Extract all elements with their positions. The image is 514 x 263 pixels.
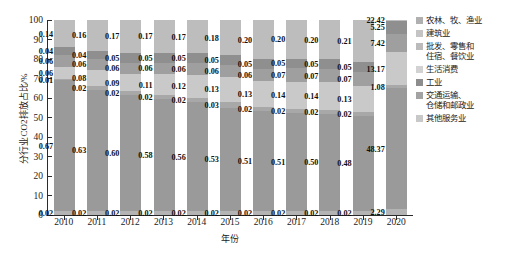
- bar-segment-value: 0.02: [72, 83, 86, 92]
- x-axis-tick: 2014: [186, 217, 207, 233]
- y-axis-title: 分行业CO2排放占比/%: [17, 44, 30, 194]
- legend-item: 工业: [416, 78, 514, 88]
- bar-segment: 13.17: [386, 52, 407, 85]
- x-axis-tick: 2011: [86, 217, 107, 233]
- bar-segment: 48.37: [386, 88, 407, 209]
- bar-segment-value: 0.17: [171, 32, 185, 41]
- bar-segment-value: 0.20: [238, 35, 252, 44]
- legend-swatch-icon: [416, 115, 423, 122]
- bar-segment-value: 0.17: [105, 32, 119, 41]
- bar-segment-value: 0.14: [39, 29, 53, 38]
- bar-segment-value: 0.05: [105, 53, 119, 62]
- bar-segment-value: 0.02: [238, 104, 252, 113]
- bar-segment-value: 0.51: [238, 156, 252, 165]
- bar-segment-value: 0.04: [72, 50, 86, 59]
- bar-segment-value: 0.03: [205, 100, 219, 109]
- bar-segment-value: 0.11: [139, 80, 153, 89]
- bar-segment: 7.42: [386, 34, 407, 53]
- bar-segment-value: 0.02: [105, 89, 119, 98]
- legend-swatch-icon: [416, 66, 423, 73]
- x-axis-tick: 2010: [53, 217, 74, 233]
- y-axis-tick: 100: [29, 15, 48, 25]
- bar-segment-value: 0.21: [337, 36, 351, 45]
- x-axis-tick: 2019: [353, 217, 374, 233]
- bar-column: 0.210.050.070.130.020.480.02: [353, 20, 374, 215]
- legend-label: 工业: [426, 78, 442, 88]
- bar-segment-value: 13.17: [366, 64, 384, 73]
- y-axis-tick: 30: [34, 152, 49, 162]
- bar-column: 0.180.050.060.130.030.530.02: [220, 20, 241, 215]
- y-axis-tick: 60: [34, 93, 49, 103]
- bar-segment-value: 7.42: [370, 39, 384, 48]
- bar-segment-value: 0.05: [271, 59, 285, 68]
- bar-segment-value: 0.06: [105, 64, 119, 73]
- x-axis-title: 年份: [47, 232, 413, 245]
- legend-label: 交通运输、 仓储和邮政业: [426, 91, 474, 111]
- legend-item: 农林、牧、渔业: [416, 16, 514, 26]
- x-axis-tick: 2020: [386, 217, 407, 233]
- bar-segment-value: 0.18: [205, 33, 219, 42]
- bar-segment-value: 0.02: [138, 93, 152, 102]
- legend-label: 农林、牧、渔业: [426, 16, 482, 26]
- legend-label: 其他服务业: [426, 114, 466, 124]
- bar-segment-value: 1.08: [370, 82, 384, 91]
- bar-segment-value: 0.06: [238, 71, 252, 80]
- bar-segment-value: 0.06: [171, 64, 185, 73]
- bar-segment-value: 0.05: [304, 59, 318, 68]
- bar-segment-value: 0.06: [72, 60, 86, 69]
- bar-segment-value: 5.25: [370, 23, 384, 32]
- bar-column: 0.200.050.070.140.020.510.02: [286, 20, 307, 215]
- bar-segment-value: 0.05: [171, 54, 185, 63]
- bar-segment-value: 0.05: [238, 60, 252, 69]
- bar-segment-value: 0.20: [271, 35, 285, 44]
- legend-item: 其他服务业: [416, 114, 514, 124]
- y-axis-tick: 20: [34, 171, 49, 181]
- bar-segment-value: 0.05: [205, 56, 219, 65]
- bar-segment-value: 0.09: [105, 78, 119, 87]
- legend-item: 交通运输、 仓储和邮政业: [416, 91, 514, 111]
- bar-segment-value: 0.16: [72, 31, 86, 40]
- bar-segment-value: 0.05: [138, 53, 152, 62]
- bar-segment: 5.25: [386, 21, 407, 34]
- plot-area: 0102030405060708090100 0.140.040.060.060…: [47, 20, 413, 216]
- stacked-bar-chart: 分行业CO2排放占比/% 0102030405060708090100 0.14…: [0, 0, 514, 263]
- legend-item: 生活消费: [416, 65, 514, 75]
- bar-segment-value: 0.02: [337, 109, 351, 118]
- legend-item: 批发、零售和 住宿、餐饮业: [416, 42, 514, 62]
- bar-segment-value: 0.13: [337, 94, 351, 103]
- bar-column: 0.160.040.060.080.020.630.02: [87, 20, 108, 215]
- bar-column: 0.140.040.060.060.010.670.02: [54, 20, 75, 215]
- x-axis-tick: 2013: [153, 217, 174, 233]
- bar-segment-value: 0.06: [205, 66, 219, 75]
- bar-segment-value: 0.02: [171, 95, 185, 104]
- bar-column: 22.425.257.4213.171.0848.372.29: [386, 20, 407, 215]
- legend: 农林、牧、渔业建筑业批发、零售和 住宿、餐饮业生活消费工业交通运输、 仓储和邮政…: [416, 16, 514, 127]
- x-axis-ticks: 2010201120122013201420152016201720182019…: [47, 217, 413, 233]
- legend-item: 建筑业: [416, 29, 514, 39]
- bar-segment-value: 0.07: [304, 71, 318, 80]
- bar-segment-value: 0.13: [238, 89, 252, 98]
- legend-swatch-icon: [416, 92, 423, 99]
- bar-segment-value: 0.60: [105, 149, 119, 158]
- legend-swatch-icon: [416, 79, 423, 86]
- bar-segment-value: 0.05: [337, 62, 351, 71]
- bar-segment-value: 0.06: [138, 64, 152, 73]
- bar-segment-value: 0.12: [171, 82, 185, 91]
- legend-swatch-icon: [416, 17, 423, 24]
- bar-segment-value: 0.63: [72, 146, 86, 155]
- bar-column: 0.170.050.060.120.020.560.02: [187, 20, 208, 215]
- legend-label: 批发、零售和 住宿、餐饮业: [426, 42, 474, 62]
- bar-segment-value: 0.13: [205, 85, 219, 94]
- bar-segment: 2.29: [386, 209, 407, 215]
- bar-segment-value: 0.67: [39, 141, 53, 150]
- bar-segment-value: 0.56: [171, 152, 185, 161]
- x-axis-tick: 2016: [253, 217, 274, 233]
- bar-segment-value: 0.06: [39, 57, 53, 66]
- bar-segment: 0.48: [353, 116, 374, 212]
- bar-segment-value: 0.02: [304, 107, 318, 116]
- legend-label: 生活消费: [426, 65, 458, 75]
- bar-segment-value: 0.53: [205, 155, 219, 164]
- bar-segment-value: 0.04: [39, 47, 53, 56]
- bar-segment-value: 0.07: [337, 74, 351, 83]
- bar-segment-value: 0.14: [304, 92, 318, 101]
